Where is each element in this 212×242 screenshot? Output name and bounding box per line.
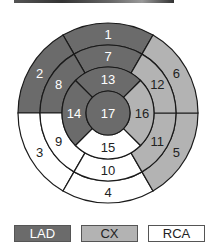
segment-label-11: 11 <box>151 134 165 149</box>
segment-label-5: 5 <box>173 145 180 160</box>
legend-cx-label: CX <box>100 226 118 241</box>
segment-label-1: 1 <box>104 27 111 42</box>
segment-label-9: 9 <box>55 134 62 149</box>
legend-rca-label: RCA <box>163 226 190 241</box>
bullseye-plot: 1234567891011121314151617 <box>0 0 212 222</box>
segment-label-10: 10 <box>101 163 115 178</box>
legend-cx: CX <box>81 225 138 242</box>
segment-label-12: 12 <box>150 77 164 92</box>
segment-label-7: 7 <box>104 49 111 64</box>
segment-label-14: 14 <box>67 106 81 121</box>
segment-label-6: 6 <box>173 66 180 81</box>
segment-label-3: 3 <box>36 145 43 160</box>
segment-label-13: 13 <box>101 72 115 87</box>
segment-label-15: 15 <box>101 140 115 155</box>
segment-label-8: 8 <box>55 77 62 92</box>
segment-label-2: 2 <box>36 66 43 81</box>
legend-lad-label: LAD <box>30 226 55 241</box>
legend-lad: LAD <box>14 225 71 242</box>
legend-rca: RCA <box>148 225 205 242</box>
segment-label-4: 4 <box>104 185 111 200</box>
segment-label-16: 16 <box>135 106 149 121</box>
segment-label-17: 17 <box>101 106 115 121</box>
